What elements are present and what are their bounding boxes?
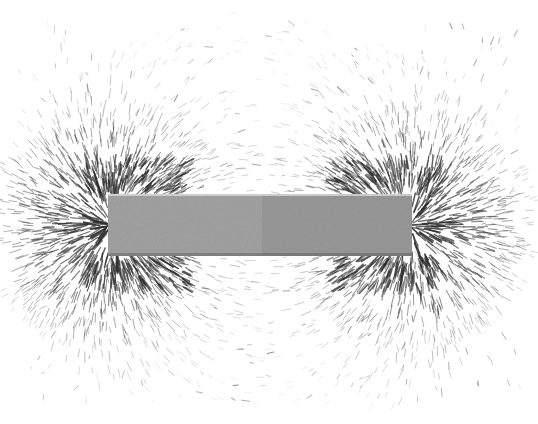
bar-magnet [108,194,412,256]
magnet-field-figure [0,0,538,424]
magnet-south-half [262,194,412,256]
magnet-north-half [108,194,262,256]
